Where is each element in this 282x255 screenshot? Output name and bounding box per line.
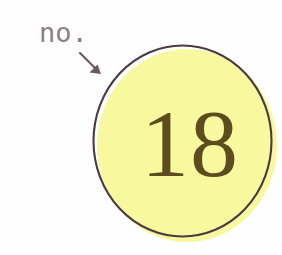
diagram-canvas: 18 no. xyxy=(0,0,282,255)
number-badge-value: 18 xyxy=(97,49,277,242)
caption-label: no. xyxy=(39,19,88,46)
